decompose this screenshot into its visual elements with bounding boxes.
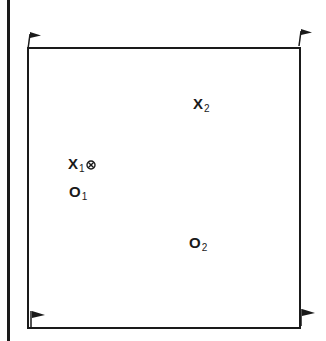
flag-icon	[297, 26, 317, 46]
label-x2: X2	[193, 96, 210, 114]
label-o1-main: O	[69, 183, 81, 200]
flag-icon	[26, 29, 46, 49]
label-x2-sub: 2	[204, 103, 210, 114]
label-x1: X1	[68, 156, 96, 174]
flag-icon	[29, 308, 49, 328]
label-x1-main: X	[68, 155, 78, 172]
label-x1-sub: 1	[79, 163, 85, 174]
label-o1-sub: 1	[82, 191, 88, 202]
label-o2-main: O	[189, 234, 201, 251]
label-o2: O2	[189, 235, 207, 253]
label-x2-main: X	[193, 95, 203, 112]
flag-icon	[299, 306, 319, 326]
label-o2-sub: 2	[202, 242, 208, 253]
left-vertical-line	[7, 0, 10, 341]
label-o1: O1	[69, 184, 87, 202]
target-icon	[86, 160, 96, 170]
